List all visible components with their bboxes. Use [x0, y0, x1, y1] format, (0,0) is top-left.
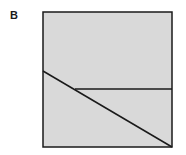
square-box [43, 12, 172, 147]
diagram [0, 0, 186, 155]
